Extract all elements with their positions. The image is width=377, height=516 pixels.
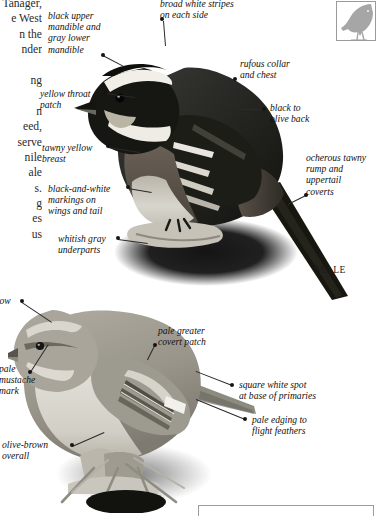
label-whitish-gray-underparts: whitish gray underparts xyxy=(58,233,106,255)
leader-dot-pale-mustache-mark xyxy=(28,370,32,374)
male-caption-initial: M xyxy=(314,262,326,276)
field-guide-plate: ed Tanager,e Westn thenderngneed,serveni… xyxy=(0,0,377,516)
leader-dot-square-white-spot xyxy=(230,383,234,387)
body-text-line: es xyxy=(0,211,42,226)
body-text-line: eed, xyxy=(0,119,42,134)
body-text-line: e West xyxy=(0,11,42,26)
body-text-line: ed Tanager, xyxy=(0,0,42,11)
leader-dot-pale-greater-covert-patch xyxy=(153,343,157,347)
body-text-line: ale xyxy=(0,165,42,180)
leader-dot-broad-white-stripes xyxy=(160,17,164,21)
book-body-text-column: ed Tanager,e Westn thenderngneed,serveni… xyxy=(0,0,42,242)
body-text-line xyxy=(0,58,42,73)
label-pale-mustache-mark: pale mustache mark xyxy=(0,363,35,397)
leader-dot-olive-brown-overall xyxy=(70,443,74,447)
body-text-line: n xyxy=(0,104,42,119)
body-text-line: nder xyxy=(0,42,42,57)
label-black-to-olive-back: black to olive back xyxy=(270,102,309,124)
leader-dot-tawny-yellow-breast xyxy=(106,144,110,148)
leader-dot-black-to-olive-back xyxy=(262,107,266,111)
leader-line-black-to-olive-back xyxy=(240,109,264,110)
leader-dot-pale-edging-flight-feathers xyxy=(243,417,247,421)
leader-dot-yellow-throat-patch xyxy=(104,90,108,94)
label-black-and-white-markings: black-and-white markings on wings and ta… xyxy=(48,183,110,217)
male-caption-rest: ALE xyxy=(326,264,346,275)
leader-dot-ocherous-tawny-rump xyxy=(304,193,308,197)
label-ocherous-tawny-rump: ocherous tawny rump and uppertail covert… xyxy=(306,152,366,197)
bird-silhouette-thumbnail xyxy=(336,1,376,41)
body-text-line: g xyxy=(0,196,42,211)
label-tawny-yellow-breast: tawny yellow breast xyxy=(42,142,92,164)
body-text-line: nile xyxy=(0,150,42,165)
body-text-line xyxy=(0,88,42,103)
male-caption: MALE xyxy=(314,262,346,277)
body-text-line: n the xyxy=(0,27,42,42)
body-text-line: us xyxy=(0,227,42,242)
body-text-line: s. xyxy=(0,181,42,196)
label-olive-brown-overall: olive-brown overall xyxy=(2,439,48,461)
label-square-white-spot: square white spot at base of primaries xyxy=(239,379,316,401)
label-rufous-collar-and-chest: rufous collar and chest xyxy=(240,58,290,80)
body-text-line: ng xyxy=(0,73,42,88)
label-black-upper-mandible: black upper mandible and gray lower mand… xyxy=(48,10,101,55)
label-yellow-throat-patch: yellow throat patch xyxy=(40,88,91,110)
leader-dot-clipped-brow-label xyxy=(20,299,24,303)
leader-dot-black-upper-mandible xyxy=(101,53,105,57)
female-bird-illustration xyxy=(8,288,258,513)
bottom-rule-box xyxy=(198,505,374,516)
label-clipped-brow-label: row xyxy=(0,295,11,306)
label-pale-greater-covert-patch: pale greater covert patch xyxy=(158,325,206,347)
leader-dot-whitish-gray-underparts xyxy=(116,236,120,240)
body-text-line: serve xyxy=(0,135,42,150)
label-pale-edging-flight-feathers: pale edging to flight feathers xyxy=(252,414,307,436)
leader-dot-black-and-white-markings xyxy=(126,185,130,189)
label-broad-white-stripes: broad white stripes on each side xyxy=(160,0,234,20)
leader-dot-rufous-collar-and-chest xyxy=(233,77,237,81)
